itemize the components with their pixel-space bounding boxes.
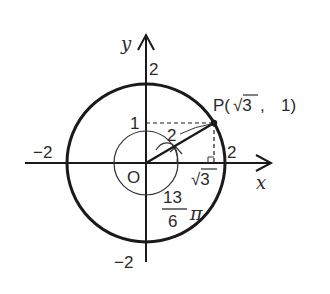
p-coord-y: 1) (281, 96, 296, 115)
tick-x-pos: 2 (227, 143, 236, 162)
radius-label: 2 (167, 126, 176, 145)
unit-circle-diagram: y x 2 −2 −2 2 1 O 2 P( √3 , 1) √3 13 6 π (0, 0, 330, 294)
horizontal-sqrt3: √3 (191, 170, 210, 189)
point-p-coordinate: P( √3 , 1) (213, 95, 296, 115)
angle-denominator: 6 (168, 212, 177, 231)
angle-pi: π (189, 202, 203, 224)
x-axis-label: x (256, 172, 266, 193)
tick-y-neg: −2 (114, 253, 133, 272)
p-coord-open: P( (213, 96, 230, 115)
origin-label: O (127, 168, 140, 187)
tick-y-pos: 2 (149, 60, 158, 79)
horizontal-length-label: √3 (191, 169, 217, 189)
p-coord-x: √3 (233, 96, 252, 115)
p-coord-sep: , (260, 96, 265, 115)
tick-x-neg: −2 (33, 143, 52, 162)
tick-y-one: 1 (130, 114, 139, 133)
radius-op (146, 123, 214, 163)
angle-numerator: 13 (163, 188, 182, 207)
point-p (211, 120, 217, 126)
y-axis-label: y (120, 33, 132, 54)
